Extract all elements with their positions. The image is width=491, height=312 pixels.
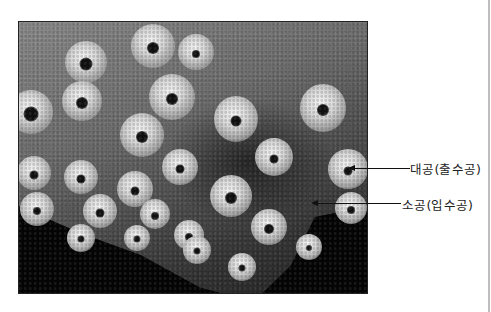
osculum — [124, 225, 150, 251]
osculum — [20, 192, 54, 226]
osculum — [18, 156, 51, 190]
osculum — [228, 253, 256, 281]
osculum — [251, 209, 287, 245]
label-ostium: 소공(입수공) — [402, 195, 473, 214]
osculum — [300, 84, 346, 132]
osculum — [255, 138, 293, 176]
osculum — [183, 236, 211, 264]
osculum — [140, 199, 170, 229]
osculum — [131, 24, 175, 68]
osculum — [83, 194, 117, 228]
arrowhead-icon — [311, 200, 318, 206]
arrow-ostium — [317, 203, 401, 204]
arrow-osculum — [354, 168, 410, 169]
page-margin-rule — [488, 0, 490, 312]
arrowhead-icon — [348, 165, 355, 171]
osculum — [149, 74, 195, 120]
label-osculum: 대공(출수공) — [410, 159, 481, 178]
osculum — [67, 224, 95, 252]
osculum — [178, 34, 214, 70]
osculum — [18, 90, 53, 134]
osculum — [335, 192, 367, 224]
osculum — [296, 234, 322, 260]
osculum — [65, 41, 107, 83]
osculum — [214, 96, 258, 142]
osculum — [62, 81, 102, 121]
osculum — [210, 175, 252, 217]
osculum — [120, 113, 164, 157]
sponge-photo — [18, 21, 368, 294]
osculum — [64, 160, 98, 194]
osculum — [162, 149, 198, 185]
